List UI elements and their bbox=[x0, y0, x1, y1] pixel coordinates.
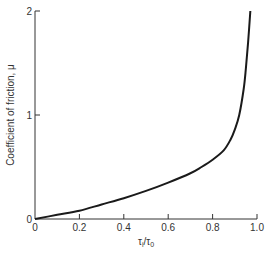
y-axis-label: Coefficient of friction, μ bbox=[5, 64, 16, 166]
axes bbox=[35, 11, 257, 219]
y-tick-label: 1 bbox=[26, 110, 32, 121]
y-tick-label: 0 bbox=[26, 214, 32, 225]
x-tick-label: 0 bbox=[32, 222, 38, 233]
x-tick-label: 0.8 bbox=[206, 222, 220, 233]
series-line bbox=[35, 11, 250, 219]
data-series bbox=[35, 11, 250, 219]
x-tick-label: 0.4 bbox=[117, 222, 131, 233]
y-ticks: 012 bbox=[26, 6, 40, 225]
x-tick-label: 0.2 bbox=[72, 222, 86, 233]
x-ticks: 00.20.40.60.81.0 bbox=[32, 214, 264, 233]
x-tick-label: 1.0 bbox=[250, 222, 264, 233]
x-tick-label: 0.6 bbox=[161, 222, 175, 233]
friction-chart: 00.20.40.60.81.0 012 Coefficient of fric… bbox=[0, 0, 267, 256]
x-axis-label: τi/τ0 bbox=[138, 236, 154, 248]
y-tick-label: 2 bbox=[26, 6, 32, 17]
